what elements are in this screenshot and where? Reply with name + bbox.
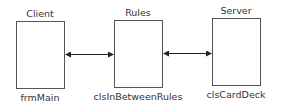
connectors	[0, 0, 281, 107]
